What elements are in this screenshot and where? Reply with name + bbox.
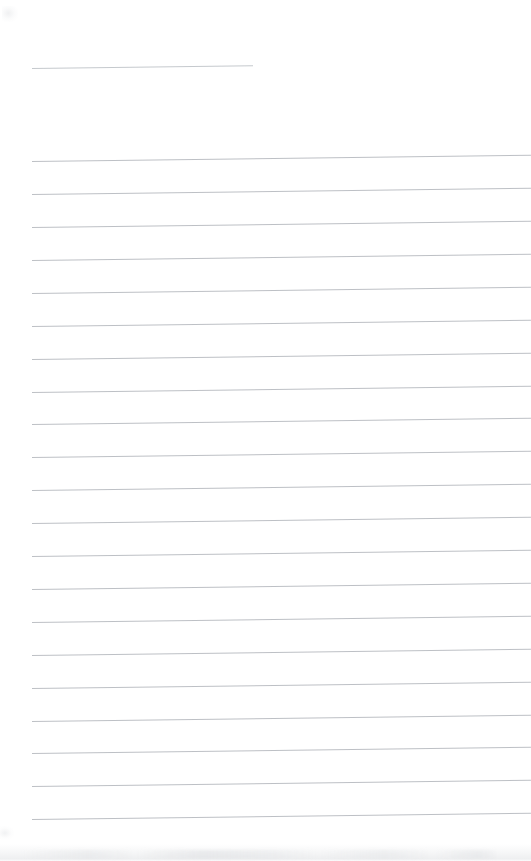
scanned-page <box>0 0 531 861</box>
paper-surface <box>0 0 531 861</box>
